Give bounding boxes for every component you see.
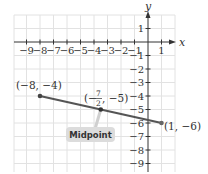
svg-text:7: 7 bbox=[96, 89, 101, 98]
point-b-label: (1, −6) bbox=[164, 120, 201, 132]
midpoint-dot bbox=[98, 107, 103, 112]
x-axis-label: x bbox=[179, 36, 186, 49]
svg-text:−7: −7 bbox=[129, 131, 144, 142]
svg-text:1: 1 bbox=[138, 23, 144, 34]
y-axis-label: y bbox=[144, 0, 152, 13]
svg-text:−3: −3 bbox=[129, 77, 144, 88]
midpoint-label: (− 7 2 , −5) bbox=[84, 89, 128, 108]
svg-text:1: 1 bbox=[158, 45, 164, 56]
svg-text:−5: −5 bbox=[129, 104, 144, 115]
midpoint-leader-line bbox=[95, 110, 101, 130]
midpoint-badge-label: Midpoint bbox=[69, 130, 111, 140]
coordinate-plane: x y −9 −8 −7 −6 −5 −4 −3 −2 −1 1 1 −1 −2… bbox=[0, 0, 208, 174]
svg-text:−2: −2 bbox=[129, 64, 144, 75]
svg-text:−9: −9 bbox=[129, 158, 144, 169]
point-a-dot bbox=[38, 94, 43, 99]
svg-text:(−: (− bbox=[84, 92, 97, 104]
svg-text:, −5): , −5) bbox=[102, 92, 128, 104]
svg-text:−4: −4 bbox=[129, 91, 144, 102]
point-a-label: (−8, −4) bbox=[16, 79, 62, 91]
svg-text:2: 2 bbox=[96, 99, 101, 108]
svg-text:−1: −1 bbox=[129, 50, 144, 61]
svg-text:−8: −8 bbox=[129, 145, 144, 156]
